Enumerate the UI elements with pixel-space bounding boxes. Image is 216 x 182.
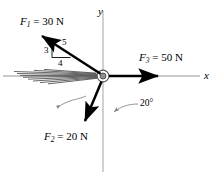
diagram-canvas — [0, 0, 216, 182]
f3-magnitude: 50 — [161, 51, 172, 63]
f2-symbol: F — [44, 130, 51, 142]
f1-symbol: F — [20, 15, 27, 27]
f3-subscript: 3 — [146, 56, 150, 65]
slope-vertical-label: 3 — [44, 46, 49, 55]
f2-leader-line — [61, 96, 86, 105]
slope-horizontal-label: 4 — [58, 59, 63, 68]
x-axis-label: x — [204, 70, 209, 81]
force-label-f2: F2 = 20 N — [44, 131, 88, 142]
force-vector-f2 — [85, 82, 102, 122]
f1-subscript: 1 — [27, 20, 31, 29]
f3-equals: = — [149, 51, 161, 63]
f1-magnitude: 30 — [42, 15, 53, 27]
f3-unit: N — [175, 51, 183, 63]
slope-hypotenuse-label: 5 — [62, 38, 67, 47]
f2-unit: N — [80, 130, 88, 142]
force-label-f3: F3 = 50 N — [139, 52, 183, 63]
f3-symbol: F — [139, 51, 146, 63]
angle-leader-line — [114, 104, 138, 112]
f1-equals: = — [30, 15, 42, 27]
f2-magnitude: 20 — [66, 130, 77, 142]
axis-group — [3, 11, 200, 172]
angle-label-20deg: 20° — [140, 99, 153, 109]
f2-subscript: 2 — [51, 135, 55, 144]
f2-equals: = — [54, 130, 66, 142]
force-diagram: F1 = 30 N F3 = 50 N F2 = 20 N 5 3 4 20° … — [0, 0, 216, 182]
force-vector-f1 — [42, 36, 101, 74]
force-label-f1: F1 = 30 N — [20, 16, 64, 27]
y-axis-label: y — [98, 6, 103, 17]
f1-unit: N — [56, 15, 64, 27]
